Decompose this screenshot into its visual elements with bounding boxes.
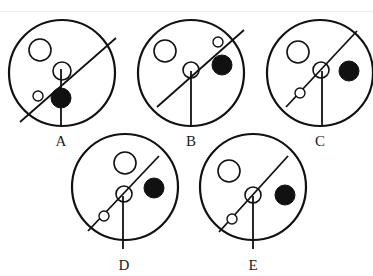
large-hollow-circle bbox=[218, 160, 240, 182]
option-label-d: D bbox=[119, 258, 130, 273]
large-hollow-circle bbox=[114, 152, 136, 174]
small-hollow-circle bbox=[295, 88, 305, 98]
filled-black-circle bbox=[144, 178, 164, 198]
large-hollow-circle bbox=[154, 40, 176, 62]
option-figure-a bbox=[9, 20, 116, 126]
small-hollow-circle bbox=[213, 37, 223, 47]
option-figure-c bbox=[267, 20, 373, 126]
option-label-a: A bbox=[56, 134, 67, 149]
option-figure-b bbox=[138, 20, 244, 126]
large-hollow-circle bbox=[287, 41, 309, 63]
option-label-e: E bbox=[248, 258, 257, 273]
small-hollow-circle bbox=[99, 211, 109, 221]
large-hollow-circle bbox=[29, 39, 51, 61]
outer-circle bbox=[9, 20, 115, 126]
small-hollow-circle bbox=[33, 91, 43, 101]
option-figure-e bbox=[200, 134, 306, 249]
option-label-b: B bbox=[186, 134, 196, 149]
option-figure-d bbox=[72, 134, 178, 249]
filled-black-circle bbox=[275, 185, 295, 205]
small-hollow-circle bbox=[227, 214, 237, 224]
medium-hollow-circle bbox=[53, 62, 71, 80]
option-label-c: C bbox=[315, 134, 325, 149]
filled-black-circle bbox=[339, 61, 359, 81]
filled-black-circle bbox=[212, 55, 232, 75]
filled-black-circle bbox=[51, 88, 71, 108]
